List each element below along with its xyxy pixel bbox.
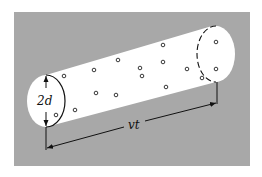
length-label: vt — [128, 118, 140, 132]
diameter-label: 2d — [36, 94, 53, 108]
collision-cylinder-diagram: 2d vt — [0, 0, 262, 177]
